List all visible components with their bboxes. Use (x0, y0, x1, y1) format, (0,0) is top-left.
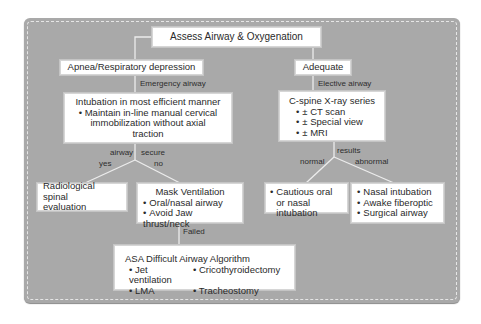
yes-label: yes (99, 159, 111, 168)
airway-label: airway (110, 148, 133, 157)
results-label: results (337, 146, 361, 155)
intubation-bullet: • Maintain in-line manual cervical immob… (78, 108, 218, 140)
abnormal-list: Nasal intubation Awake fiberoptic Surgic… (357, 187, 438, 219)
failed-label: Failed (183, 227, 205, 236)
asa-list: • Jet ventilation • Cricothyroidectomy •… (125, 265, 284, 297)
list-item: Avoid Jaw thrust/neck (143, 208, 237, 229)
cspine-title: C-spine X-ray series (286, 96, 378, 107)
list-item: ± Special view (296, 117, 378, 128)
mask-ventilation-box: Mask Ventilation Oral/nasal airway Avoid… (137, 183, 243, 223)
mask-ventilation-title: Mask Ventilation (143, 187, 237, 198)
cautious-intubation-box: • Cautious oral or nasal intubation (265, 183, 348, 213)
apnea-label: Apnea/Respiratory depression (68, 62, 196, 73)
assess-airway-box: Assess Airway & Oxygenation (152, 27, 321, 47)
list-item: • LMA (129, 286, 193, 297)
normal-label: normal (300, 157, 324, 166)
adequate-box: Adequate (295, 60, 351, 75)
cspine-list: ± CT scan ± Special view ± MRI (286, 107, 378, 139)
adequate-label: Adequate (303, 62, 344, 73)
secure-label: secure (141, 148, 165, 157)
list-item: • Tracheostomy (193, 286, 284, 297)
abnormal-options-box: Nasal intubation Awake fiberoptic Surgic… (351, 183, 444, 223)
list-item: • Cricothyroidectomy (193, 265, 284, 286)
radiological-label: Radiological spinal evaluation (43, 181, 113, 213)
list-item: • Cautious oral or nasal intubation (270, 187, 343, 219)
list-item: • Jet ventilation (129, 265, 193, 286)
no-label: no (154, 159, 163, 168)
mask-ventilation-list: Oral/nasal airway Avoid Jaw thrust/neck (143, 198, 237, 230)
cspine-box: C-spine X-ray series ± CT scan ± Special… (279, 91, 385, 141)
list-item: Surgical airway (357, 208, 438, 219)
emergency-airway-label: Emergency airway (140, 79, 206, 88)
abnormal-label: abnormal (355, 157, 388, 166)
apnea-box: Apnea/Respiratory depression (60, 60, 203, 75)
intubation-box: Intubation in most efficient manner • Ma… (64, 93, 232, 143)
list-item: Nasal intubation (357, 187, 438, 198)
asa-algorithm-box: ASA Difficult Airway Algorithm • Jet ven… (114, 245, 295, 290)
elective-airway-label: Elective airway (318, 79, 371, 88)
list-item: ± MRI (296, 128, 378, 139)
assess-airway-label: Assess Airway & Oxygenation (170, 32, 303, 43)
radiological-box: Radiological spinal evaluation (37, 183, 127, 211)
